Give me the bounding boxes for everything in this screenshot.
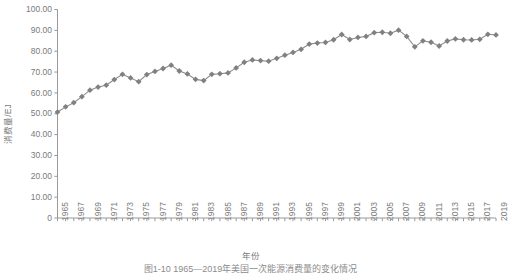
data-point-marker xyxy=(371,30,377,36)
data-point-marker xyxy=(185,71,191,77)
data-point-marker xyxy=(63,104,69,110)
series-markers xyxy=(55,27,499,115)
figure-caption: 图1-10 1965—2019年美国一次能源消费量的变化情况 xyxy=(0,262,501,275)
data-point-marker xyxy=(323,40,329,46)
data-point-marker xyxy=(428,39,434,45)
data-point-marker xyxy=(436,43,442,49)
data-point-marker xyxy=(266,58,272,64)
data-point-marker xyxy=(379,29,385,35)
data-point-marker xyxy=(314,40,320,46)
data-point-marker xyxy=(120,71,126,77)
data-point-marker xyxy=(485,31,491,37)
data-point-marker xyxy=(306,41,312,47)
data-point-marker xyxy=(128,75,134,81)
data-point-marker xyxy=(160,66,166,72)
data-point-marker xyxy=(452,36,458,42)
data-point-marker xyxy=(274,55,280,61)
data-point-marker xyxy=(95,84,101,90)
data-point-marker xyxy=(363,33,369,39)
data-point-marker xyxy=(461,37,467,43)
data-point-marker xyxy=(282,52,288,58)
data-point-marker xyxy=(298,46,304,52)
data-point-marker xyxy=(469,37,475,43)
data-point-marker xyxy=(290,50,296,56)
data-point-marker xyxy=(388,30,394,36)
data-point-marker xyxy=(152,69,158,75)
data-point-marker xyxy=(331,37,337,43)
data-point-marker xyxy=(444,38,450,44)
data-point-marker xyxy=(347,37,353,43)
data-point-marker xyxy=(477,36,483,42)
data-point-marker xyxy=(225,70,231,76)
data-point-marker xyxy=(217,71,223,77)
data-point-marker xyxy=(258,58,264,64)
data-point-marker xyxy=(355,35,361,41)
data-point-marker xyxy=(493,32,499,38)
data-point-marker xyxy=(339,32,345,38)
data-point-marker xyxy=(249,57,255,63)
x-axis-title: 年份 xyxy=(0,249,501,261)
data-point-marker xyxy=(193,76,199,82)
